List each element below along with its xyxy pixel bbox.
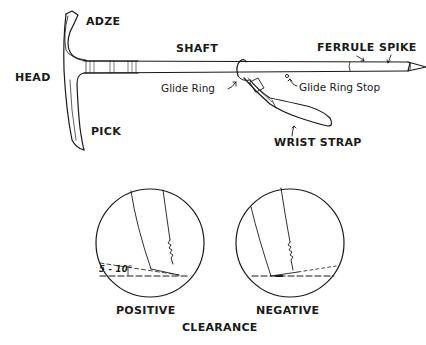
label-head: HEAD — [15, 72, 51, 83]
label-negative: NEGATIVE — [256, 305, 319, 316]
label-shaft: SHAFT — [176, 43, 218, 54]
negative-clearance-drawing — [236, 188, 344, 297]
leader-arrows — [228, 55, 391, 136]
label-glide-ring: Glide Ring — [161, 83, 215, 94]
label-adze: ADZE — [86, 16, 120, 27]
label-pick: PICK — [91, 126, 121, 137]
positive-clearance-drawing — [96, 189, 204, 297]
ice-axe-diagram: ADZE HEAD PICK SHAFT FERRULE SPIKE Glide… — [0, 0, 426, 345]
label-spike: SPIKE — [379, 42, 417, 53]
label-glide-ring-stop: Glide Ring Stop — [299, 82, 380, 93]
axe-shaft-drawing — [84, 61, 426, 73]
label-clearance: CLEARANCE — [182, 322, 258, 333]
label-angle-annotation: 5 - 10° — [99, 265, 133, 274]
label-wrist-strap: WRIST STRAP — [274, 137, 362, 148]
label-ferrule: FERRULE — [317, 42, 375, 53]
label-positive: POSITIVE — [116, 305, 175, 316]
